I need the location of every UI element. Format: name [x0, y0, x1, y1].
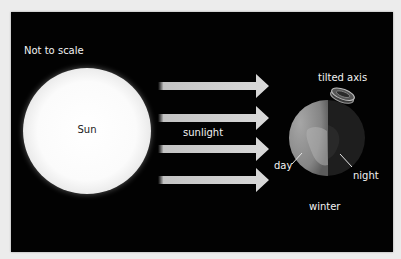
- tilted-axis-label: tilted axis: [318, 72, 367, 84]
- sun-icon: Sun: [23, 68, 151, 194]
- winter-label: winter: [309, 201, 340, 213]
- sunlight-arrow-icon: [158, 137, 270, 161]
- sunlight-arrow-icon: [158, 74, 270, 98]
- night-label: night: [353, 170, 379, 182]
- sunlight-label: sunlight: [183, 127, 223, 139]
- day-label: day: [274, 160, 292, 172]
- sun-label: Sun: [23, 124, 151, 135]
- sunlight-arrow-icon: [158, 168, 270, 192]
- earth-icon: [285, 85, 375, 180]
- not-to-scale-note: Not to scale: [24, 45, 84, 57]
